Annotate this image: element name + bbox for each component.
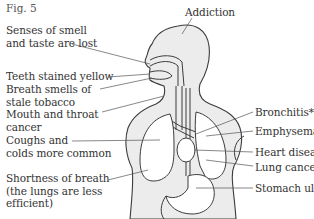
label-line: Coughs and	[6, 134, 111, 147]
label-line: and taste are lost	[6, 37, 97, 50]
label-line: stale tobacco	[6, 96, 91, 109]
heart	[177, 138, 195, 162]
label-addiction: Addiction	[185, 6, 235, 19]
label-senses: Senses of smell and taste are lost	[6, 24, 97, 49]
label-bronchitis: Bronchitis*	[255, 106, 314, 119]
label-teeth: Teeth stained yellow	[6, 70, 113, 83]
label-shortness: Shortness of breath (the lungs are less …	[6, 172, 109, 210]
label-emphysema: Emphysema**	[255, 125, 314, 138]
label-lung-cancer: Lung cancer	[255, 161, 314, 174]
body-silhouette	[126, 25, 242, 219]
label-heart: Heart disease	[255, 146, 314, 159]
leader-teeth	[108, 74, 150, 77]
label-line: Teeth stained yellow	[6, 70, 113, 83]
label-line: efficient)	[6, 197, 109, 210]
label-mouth-throat: Mouth and throat cancer	[6, 108, 98, 133]
label-stomach: Stomach ulcer	[255, 182, 314, 195]
label-coughs: Coughs and colds more common	[6, 134, 111, 159]
label-breath: Breath smells of stale tobacco	[6, 83, 91, 108]
label-line: Mouth and throat	[6, 108, 98, 121]
label-line: colds more common	[6, 147, 111, 160]
label-line: Shortness of breath	[6, 172, 109, 185]
label-line: Senses of smell	[6, 24, 97, 37]
label-line: cancer	[6, 121, 98, 134]
label-line: (the lungs are less	[6, 185, 109, 198]
label-line: Breath smells of	[6, 83, 91, 96]
